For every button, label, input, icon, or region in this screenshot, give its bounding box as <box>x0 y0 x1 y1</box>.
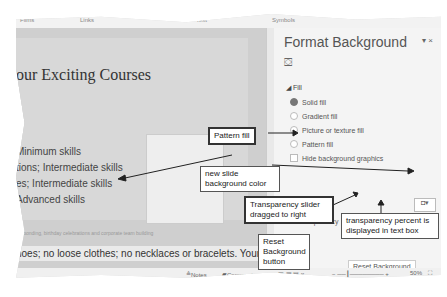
callout-reset-button: Reset Background button <box>258 234 310 270</box>
callout-percent-text: transparency percent is displayed in tex… <box>341 213 439 239</box>
callout-new-bg-color: new slide background color <box>200 166 280 192</box>
callout-slider-dragged: Transparency slider dragged to right <box>244 196 334 224</box>
callout-pattern-fill: Pattern fill <box>208 127 256 145</box>
callout-arrows <box>0 0 447 297</box>
